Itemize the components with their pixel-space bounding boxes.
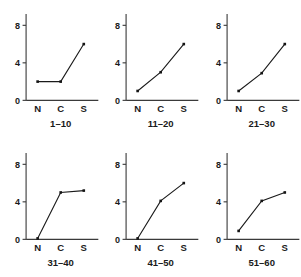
data-point-marker [82,43,85,46]
data-point-marker [59,191,62,194]
data-point-marker [59,80,62,83]
data-point-marker [137,90,140,93]
data-point-marker [237,90,240,93]
y-tick-label: 4 [216,197,221,207]
y-tick-label: 8 [15,21,20,31]
y-tick-label: 8 [115,159,120,169]
x-category-label: N [235,103,242,114]
x-category-label: N [135,242,142,253]
data-point-marker [237,229,240,232]
x-category-label: C [258,242,265,253]
panel-title: 31–40 [47,257,73,268]
y-tick-label: 0 [216,234,221,244]
line-chart: 048NCS11–20 [100,0,200,139]
y-tick-label: 0 [216,96,221,106]
data-point-marker [160,71,163,74]
x-category-label: N [135,103,142,114]
chart-panel: 048NCS21–30 [201,0,301,139]
x-category-label: S [181,242,187,253]
line-chart: 048NCS51–60 [201,139,301,277]
y-tick-label: 4 [115,197,120,207]
x-category-label: C [57,242,64,253]
x-category-label: N [34,242,41,253]
line-chart: 048NCS31–40 [0,139,100,277]
data-point-marker [36,80,39,83]
x-category-label: N [235,242,242,253]
y-tick-label: 0 [15,234,20,244]
x-category-label: N [34,103,41,114]
chart-panel: 048NCS41–50 [100,139,200,277]
y-tick-label: 4 [15,197,20,207]
panel-title: 41–50 [148,257,174,268]
data-point-marker [183,181,186,184]
data-point-marker [283,191,286,194]
x-category-label: C [57,103,64,114]
chart-panel: 048NCS31–40 [0,139,100,277]
data-point-marker [137,237,140,240]
x-category-label: S [81,103,87,114]
data-series-line [138,183,184,238]
data-point-marker [260,72,263,75]
x-category-label: S [181,103,187,114]
panel-grid: 048NCS1–10 048NCS11–20 048NCS21–30 048NC… [0,0,301,277]
panel-title: 1–10 [50,118,71,129]
x-category-label: C [158,103,165,114]
x-category-label: S [281,242,287,253]
data-point-marker [36,237,39,240]
line-chart: 048NCS21–30 [201,0,301,139]
panel-title: 51–60 [248,257,274,268]
data-series-line [38,44,84,82]
chart-panel: 048NCS11–20 [100,0,200,139]
figure-small-multiples: 048NCS1–10 048NCS11–20 048NCS21–30 048NC… [0,0,301,277]
data-series-line [38,190,84,238]
y-tick-label: 4 [216,58,221,68]
data-point-marker [82,189,85,192]
data-series-line [238,44,284,91]
x-category-label: S [81,242,87,253]
panel-title: 11–20 [148,118,174,129]
line-chart: 048NCS1–10 [0,0,100,139]
data-series-line [138,44,184,91]
data-point-marker [160,199,163,202]
line-chart: 048NCS41–50 [100,139,200,277]
y-tick-label: 4 [15,58,20,68]
y-tick-label: 8 [15,159,20,169]
y-tick-label: 8 [216,159,221,169]
data-point-marker [183,43,186,46]
chart-panel: 048NCS1–10 [0,0,100,139]
chart-panel: 048NCS51–60 [201,139,301,277]
x-category-label: C [158,242,165,253]
y-tick-label: 8 [115,21,120,31]
y-tick-label: 0 [115,96,120,106]
x-category-label: C [258,103,265,114]
y-tick-label: 0 [15,96,20,106]
data-point-marker [283,43,286,46]
data-point-marker [260,199,263,202]
panel-title: 21–30 [248,118,274,129]
x-category-label: S [281,103,287,114]
y-tick-label: 4 [115,58,120,68]
y-tick-label: 8 [216,21,221,31]
data-series-line [238,192,284,230]
y-tick-label: 0 [115,234,120,244]
